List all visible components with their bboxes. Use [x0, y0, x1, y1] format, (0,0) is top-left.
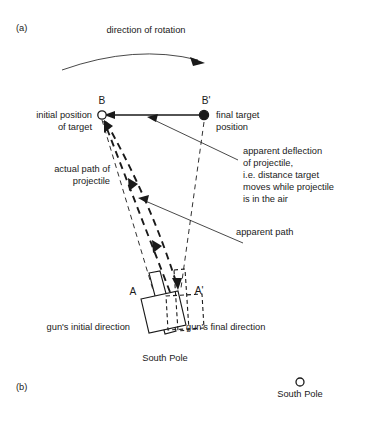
south-pole-label-b: South Pole: [277, 389, 323, 399]
coriolis-deflection-figure: (a) direction of rotation B B' initial p…: [0, 0, 372, 426]
actual-path-group: [104, 120, 170, 292]
apparent-path-group: [106, 122, 182, 290]
actual-path-label-line1: actual path of: [54, 164, 110, 174]
point-a-label: A: [130, 286, 137, 297]
point-b-label: B: [99, 95, 106, 106]
apparent-path-arrowhead-icon: [172, 278, 182, 290]
panel-a-label: (a): [16, 23, 27, 33]
point-b-prime-label: B': [202, 95, 211, 106]
actual-path-label-line2: projectile: [73, 176, 110, 186]
final-aim-dashed-line: [181, 122, 204, 288]
final-target-label-line2: position: [216, 122, 248, 132]
rotation-arc-arrowhead-icon: [190, 57, 205, 66]
rotation-arc-group: [62, 54, 205, 70]
diagram-canvas: (a) direction of rotation B B' initial p…: [0, 0, 372, 426]
initial-target-marker-icon: [98, 111, 106, 119]
final-target-label-line1: final target: [216, 110, 260, 120]
deflection-leader-group: [147, 114, 238, 160]
gun-initial-base: [141, 291, 186, 333]
south-pole-label-a: South Pole: [142, 353, 188, 363]
rotation-arc-icon: [62, 54, 198, 70]
gun-initial-direction-label: gun's initial direction: [47, 322, 130, 332]
deflection-label-line1: apparent deflection: [243, 146, 322, 156]
initial-position-label-line1: initial position: [36, 110, 92, 120]
actual-path-arrowhead-low-icon: [152, 240, 162, 253]
apparent-path-line: [106, 122, 176, 282]
deflection-label-line4: moves while projectile: [243, 182, 334, 192]
deflection-label-line5: is in the air: [243, 194, 288, 204]
initial-position-label-line2: of target: [58, 122, 93, 132]
final-target-marker-icon: [199, 110, 208, 119]
point-a-prime-label: A': [195, 285, 204, 296]
apparent-path-leader-line: [143, 200, 243, 243]
gun-final-direction-label: gun's final direction: [186, 322, 265, 332]
actual-path-line: [104, 121, 170, 292]
apparent-path-label: apparent path: [236, 227, 293, 237]
south-pole-marker-b-icon: [296, 378, 304, 386]
deflection-label-line2: of projectile,: [243, 158, 293, 168]
initial-aim-dashed-line: [102, 120, 153, 290]
panel-b-label: (b): [16, 382, 27, 392]
deflection-label-line3: i.e. distance target: [243, 170, 319, 180]
rotation-direction-label: direction of rotation: [106, 25, 185, 35]
